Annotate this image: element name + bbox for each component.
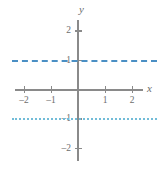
y-tick-mark <box>75 30 82 32</box>
x-tick-label: 1 <box>103 96 108 106</box>
y-tick-label: –2 <box>62 144 72 154</box>
y-tick-label: 2 <box>66 26 71 36</box>
x-tick-label: –2 <box>19 96 29 106</box>
x-tick-mark <box>105 86 107 93</box>
coordinate-plane-figure: –2 –1 1 2 2 1 –1 –2 x y <box>0 0 163 169</box>
horizontal-line-y-equals-1 <box>12 60 157 62</box>
x-tick-label: 2 <box>130 96 135 106</box>
y-axis <box>77 20 79 161</box>
y-axis-label: y <box>79 4 84 15</box>
x-tick-mark <box>132 86 134 93</box>
x-axis <box>15 89 143 91</box>
x-tick-mark <box>24 86 26 93</box>
x-tick-mark <box>51 86 53 93</box>
horizontal-line-y-equals-negative-1 <box>12 118 157 120</box>
y-tick-mark <box>75 148 82 150</box>
x-axis-label: x <box>147 83 152 94</box>
x-tick-label: –1 <box>46 96 56 106</box>
